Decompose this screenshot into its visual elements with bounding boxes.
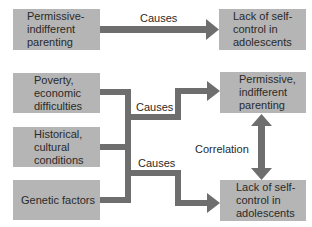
box-lack-of-self-control-top: Lack of self- control in adolescents (219, 9, 306, 50)
box-permissive-indifferent-parenting: Permissive- indifferent parenting (13, 9, 100, 50)
top-causes-label: Causes (140, 12, 177, 24)
correlation-double-arrow (251, 114, 272, 180)
box-label: Poverty, economic difficulties (13, 74, 100, 113)
causes-label-upper: Causes (136, 101, 173, 113)
box-label: Lack of self- control in adolescents (219, 10, 306, 49)
box-permissive-parenting-bottom: Permissive, indifferent parenting (220, 72, 306, 113)
box-historical-cultural: Historical, cultural conditions (13, 127, 100, 167)
box-label: Lack of self- control in adolescents (220, 181, 306, 220)
box-genetic-factors: Genetic factors (13, 180, 100, 220)
box-label: Permissive, indifferent parenting (220, 73, 306, 112)
box-lack-of-self-control-bottom: Lack of self- control in adolescents (220, 180, 306, 221)
causes-arrow-to-self-control (125, 170, 220, 213)
box-label: Historical, cultural conditions (13, 128, 100, 167)
correlation-label: Correlation (195, 143, 249, 155)
box-label: Permissive- indifferent parenting (13, 10, 100, 49)
box-poverty: Poverty, economic difficulties (13, 73, 100, 113)
box-label: Genetic factors (13, 194, 100, 207)
factors-connector (100, 89, 131, 203)
causes-label-lower: Causes (138, 157, 175, 169)
